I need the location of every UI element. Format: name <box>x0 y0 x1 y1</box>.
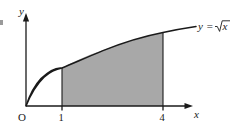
y-axis-label: y <box>18 5 24 17</box>
curve-label-y: y <box>197 20 203 32</box>
x-axis-arrowhead <box>185 103 194 109</box>
figure-container: y x O 1 4 y = x <box>0 0 231 135</box>
curve-label-radicand: x <box>221 20 227 32</box>
shaded-area-region <box>62 33 163 107</box>
x-axis-label: x <box>193 108 199 120</box>
origin-label: O <box>18 111 26 123</box>
page-edge-artifact <box>0 20 3 25</box>
x-tick-label-4: 4 <box>160 112 166 123</box>
x-tick-label-1: 1 <box>59 112 64 123</box>
curve-label-equals: = <box>206 20 213 32</box>
curve-equation-label: y = x <box>197 20 230 32</box>
graph-canvas: y x O 1 4 y = x <box>0 0 231 135</box>
